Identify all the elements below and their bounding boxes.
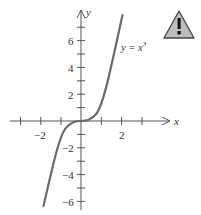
chart: −2 2 6 4 2 −2 −4 −6 x y y = x3: [0, 0, 201, 215]
curve-y-equals-x-cubed: [44, 15, 123, 206]
y-tick-label-neg4: −4: [62, 169, 74, 181]
curve-label: y = x3: [120, 40, 147, 53]
y-tick-label-6: 6: [68, 35, 74, 47]
y-axis-label: y: [85, 6, 91, 18]
warning-triangle-icon: [164, 11, 194, 38]
y-tick-label-4: 4: [68, 62, 74, 74]
x-tick-label-2: 2: [119, 129, 125, 141]
y-tick-label-neg2: −2: [62, 142, 74, 154]
x-tick-label-neg2: −2: [34, 129, 46, 141]
y-tick-label-2: 2: [68, 89, 74, 101]
x-axis-label: x: [173, 115, 179, 127]
y-tick-label-neg6: −6: [62, 196, 74, 208]
